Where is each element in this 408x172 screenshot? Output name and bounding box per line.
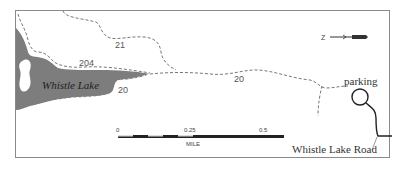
trail-label-204: 204 xyxy=(79,59,94,68)
lake-island xyxy=(19,60,31,92)
trail-label-20: 20 xyxy=(234,75,244,84)
north-label: Z xyxy=(321,34,325,41)
whistle-lake xyxy=(16,28,150,110)
spur-trail xyxy=(318,86,322,116)
scale-tick-025: 0.25 xyxy=(184,127,196,133)
trail-label-21: 21 xyxy=(115,41,125,50)
trail-20 xyxy=(150,70,348,88)
parking-loop xyxy=(352,89,368,105)
parking-label: parking xyxy=(344,76,378,87)
road-label: Whistle Lake Road xyxy=(292,144,377,155)
trail-label-20-lake: 20 xyxy=(118,86,128,95)
scale-unit: MILE xyxy=(186,141,200,147)
scale-bar xyxy=(118,135,284,138)
scale-tick-0: 0 xyxy=(116,127,119,133)
north-arrow-icon xyxy=(330,35,368,39)
whistle-lake-road xyxy=(366,103,392,136)
scale-tick-05: 0.5 xyxy=(259,127,267,133)
lake-label: Whistle Lake xyxy=(42,80,99,91)
